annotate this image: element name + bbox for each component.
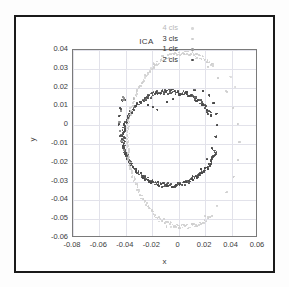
legend-item[interactable]: 2 cls [132, 55, 196, 66]
data-point [121, 140, 123, 142]
data-point [145, 99, 147, 101]
data-point [237, 159, 239, 161]
grid-line-horizontal [73, 144, 256, 145]
data-point [200, 99, 202, 101]
data-point [201, 103, 203, 105]
data-point [152, 211, 154, 213]
data-point [131, 173, 133, 175]
data-point [208, 110, 210, 112]
data-point [191, 94, 193, 96]
data-point [216, 151, 218, 153]
data-point [164, 222, 166, 224]
data-point [157, 181, 159, 183]
data-point [210, 163, 212, 165]
data-point [205, 105, 207, 107]
y-tick-label: -0.04 [34, 195, 68, 203]
legend-marker-icon [191, 38, 194, 41]
legend-item-label: 3 cls [163, 34, 178, 45]
legend-item-label: 2 cls [163, 55, 178, 66]
data-point [170, 92, 172, 94]
data-point [132, 102, 134, 104]
y-tick-label: -0.03 [34, 177, 68, 185]
data-point [191, 223, 193, 225]
data-point [169, 90, 171, 92]
legend-item[interactable]: 1 cls [132, 44, 196, 55]
data-point [217, 77, 219, 79]
data-point [186, 91, 188, 93]
data-point [199, 174, 201, 176]
data-point [200, 168, 202, 170]
data-point [142, 176, 144, 178]
screenshot-root: ICA 0.040.030.020.010-0.01-0.02-0.03-0.0… [0, 0, 289, 287]
y-tick-label: -0.01 [34, 139, 68, 147]
data-point [160, 94, 162, 96]
data-point [194, 99, 196, 101]
data-point [196, 177, 198, 179]
data-point [130, 162, 132, 164]
data-point [203, 222, 205, 224]
data-point [150, 97, 152, 99]
data-point [144, 202, 146, 204]
legend-marker-icon [191, 59, 194, 62]
data-point [182, 227, 184, 229]
x-axis-label: x [72, 257, 257, 266]
data-point [202, 55, 204, 57]
data-point [206, 159, 208, 161]
data-point [140, 85, 142, 87]
data-point [215, 113, 217, 115]
data-point [150, 67, 152, 69]
legend-marker-icon [191, 48, 194, 51]
data-point [210, 160, 212, 162]
data-point [208, 94, 210, 96]
data-point [129, 156, 131, 158]
data-point [166, 102, 168, 104]
data-point [198, 54, 200, 56]
grid-line-horizontal [73, 200, 256, 201]
data-point [167, 93, 169, 95]
grid-line-vertical [73, 50, 74, 236]
data-point [147, 104, 149, 106]
data-point [183, 94, 185, 96]
data-point [239, 141, 241, 143]
data-point [163, 218, 165, 220]
data-point [136, 95, 138, 97]
data-point [238, 159, 240, 161]
data-point [123, 134, 125, 136]
data-point [131, 176, 133, 178]
data-point [119, 121, 121, 123]
y-tick-label: 0.03 [34, 64, 68, 72]
data-point [208, 62, 210, 64]
data-point [169, 223, 171, 225]
x-axis-tick-labels: -0.08-0.06-0.04-0.0200.020.040.06 [72, 239, 257, 253]
data-point [166, 185, 168, 187]
data-point [163, 91, 165, 93]
data-point [130, 110, 132, 112]
y-tick-label: -0.02 [34, 158, 68, 166]
data-point [120, 134, 122, 136]
data-point [202, 90, 204, 92]
legend-item[interactable]: 4 cls [132, 23, 196, 34]
data-point [206, 220, 208, 222]
data-point [173, 91, 175, 93]
data-point [151, 92, 153, 94]
legend-marker-icon [191, 27, 194, 30]
data-point [210, 114, 212, 116]
legend-item[interactable]: 3 cls [132, 34, 196, 45]
data-point [163, 93, 165, 95]
data-point [135, 170, 137, 172]
data-point [175, 93, 177, 95]
data-point [184, 184, 186, 186]
data-point [138, 104, 140, 106]
data-point [183, 181, 185, 183]
y-tick-label: 0.01 [34, 101, 68, 109]
data-point [187, 95, 189, 97]
data-point [175, 184, 177, 186]
data-point [206, 61, 208, 63]
data-point [216, 125, 218, 127]
data-point [195, 89, 197, 91]
figure-frame: ICA 0.040.030.020.010-0.01-0.02-0.03-0.0… [14, 15, 275, 273]
data-point [207, 66, 209, 68]
legend: 4 cls3 cls1 cls2 cls [132, 23, 196, 65]
data-point [144, 77, 146, 79]
data-point [141, 83, 143, 85]
